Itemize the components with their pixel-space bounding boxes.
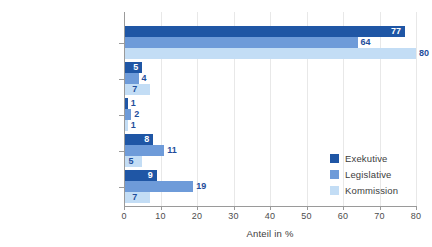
x-tick-label: 70: [374, 211, 384, 221]
legend-label: Exekutive: [345, 153, 388, 164]
legend-label: Legislative: [345, 169, 392, 180]
bar-chart: 77648054712181159197 01020304050607080 V…: [0, 0, 432, 247]
y-tick-mark: [119, 187, 124, 188]
x-tick-label: 0: [121, 211, 126, 221]
bar: [124, 48, 416, 59]
y-tick-mark: [119, 115, 124, 116]
legend-color-swatch: [330, 186, 339, 195]
bar-value-label: 5: [124, 156, 138, 167]
bar: [124, 109, 131, 120]
bar-value-label: 2: [134, 109, 139, 120]
legend-color-swatch: [330, 170, 339, 179]
bar: [124, 73, 139, 84]
y-axis-line: [124, 12, 125, 206]
bar-value-label: 5: [124, 62, 138, 73]
bar-value-label: 8: [124, 134, 149, 145]
x-tick-mark: [307, 206, 308, 210]
legend-item[interactable]: Kommission: [330, 184, 398, 197]
x-axis-title: Anteil in %: [124, 228, 416, 239]
legend-color-swatch: [330, 154, 339, 163]
y-tick-mark: [119, 79, 124, 80]
x-tick-label: 30: [228, 211, 238, 221]
x-tick-mark: [343, 206, 344, 210]
bar-value-label: 1: [131, 98, 136, 109]
x-tick-mark: [380, 206, 381, 210]
gridline: [416, 12, 417, 206]
bar: [124, 145, 164, 156]
x-tick-label: 40: [265, 211, 275, 221]
legend-label: Kommission: [345, 185, 398, 196]
x-tick-mark: [161, 206, 162, 210]
bar-value-label: 80: [419, 48, 429, 59]
bar-value-label: 1: [131, 120, 136, 131]
bar-value-label: 64: [361, 37, 371, 48]
x-tick-label: 60: [338, 211, 348, 221]
bar-value-label: 19: [196, 181, 206, 192]
bar: [124, 181, 193, 192]
x-tick-label: 80: [411, 211, 421, 221]
x-tick-label: 10: [155, 211, 165, 221]
legend-item[interactable]: Legislative: [330, 168, 398, 181]
bar-value-label: 7: [124, 192, 146, 203]
bar-value-label: 4: [142, 73, 147, 84]
x-tick-mark: [234, 206, 235, 210]
chart-legend: ExekutiveLegislativeKommission: [330, 152, 398, 200]
x-tick-label: 50: [301, 211, 311, 221]
y-tick-mark: [119, 151, 124, 152]
x-tick-mark: [124, 206, 125, 210]
bar-value-label: 11: [167, 145, 177, 156]
legend-item[interactable]: Exekutive: [330, 152, 398, 165]
x-tick-label: 20: [192, 211, 202, 221]
bar-value-label: 7: [124, 84, 146, 95]
bar: [124, 37, 358, 48]
x-tick-mark: [416, 206, 417, 210]
bar-value-label: 77: [124, 26, 401, 37]
x-tick-mark: [197, 206, 198, 210]
x-tick-mark: [270, 206, 271, 210]
bar-value-label: 9: [124, 170, 153, 181]
y-tick-mark: [119, 43, 124, 44]
